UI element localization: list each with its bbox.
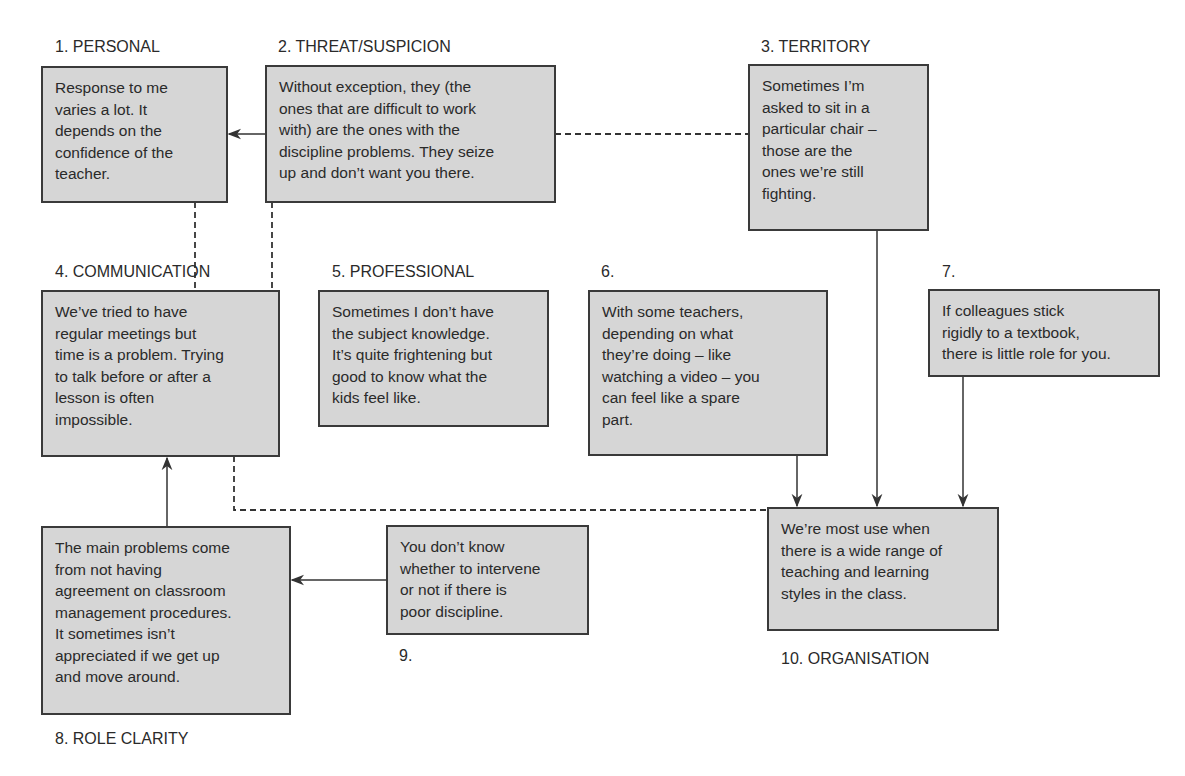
node-text-territory: Sometimes I’m asked to sit in a particul…: [762, 75, 915, 204]
node-threat-suspicion: Without exception, they (the ones that a…: [265, 65, 556, 203]
node-text-7: If colleagues stick rigidly to a textboo…: [942, 300, 1146, 365]
node-label-6: 6.: [601, 263, 614, 281]
node-label-territory: 3. TERRITORY: [761, 38, 870, 56]
node-label-communication: 4. COMMUNICATION: [55, 263, 210, 281]
node-label-organisation: 10. ORGANISATION: [781, 650, 929, 668]
node-text-personal: Response to me varies a lot. It depends …: [55, 77, 214, 185]
node-label-7: 7.: [942, 263, 955, 281]
node-text-role-clarity: The main problems come from not having a…: [55, 537, 277, 688]
node-organisation: We’re most use when there is a wide rang…: [767, 507, 999, 631]
node-text-organisation: We’re most use when there is a wide rang…: [781, 518, 985, 604]
node-text-communication: We’ve tried to have regular meetings but…: [55, 301, 266, 430]
node-label-9: 9.: [399, 647, 412, 665]
node-text-9: You don’t know whether to intervene or n…: [400, 536, 575, 622]
node-6: With some teachers, depending on what th…: [588, 290, 828, 456]
node-text-6: With some teachers, depending on what th…: [602, 301, 814, 430]
node-label-threat-suspicion: 2. THREAT/SUSPICION: [278, 38, 451, 56]
node-personal: Response to me varies a lot. It depends …: [41, 66, 228, 203]
node-label-professional: 5. PROFESSIONAL: [332, 263, 474, 281]
node-7: If colleagues stick rigidly to a textboo…: [928, 289, 1160, 377]
node-label-personal: 1. PERSONAL: [55, 38, 160, 56]
edge-4-to-10: [234, 456, 767, 510]
node-label-role-clarity: 8. ROLE CLARITY: [55, 730, 188, 748]
node-9: You don’t know whether to intervene or n…: [386, 525, 589, 635]
node-territory: Sometimes I’m asked to sit in a particul…: [748, 64, 929, 231]
node-role-clarity: The main problems come from not having a…: [41, 526, 291, 715]
node-professional: Sometimes I don’t have the subject knowl…: [318, 290, 549, 427]
node-text-professional: Sometimes I don’t have the subject knowl…: [332, 301, 535, 409]
node-communication: We’ve tried to have regular meetings but…: [41, 290, 280, 457]
node-text-threat-suspicion: Without exception, they (the ones that a…: [279, 76, 542, 184]
